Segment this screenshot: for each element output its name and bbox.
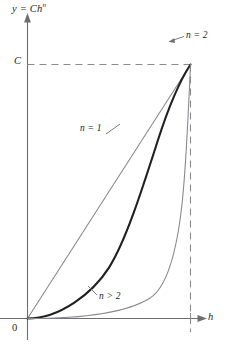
annotation-n-greater-2: n > 2 <box>99 292 121 302</box>
annotation-n-equals-1: n = 1 <box>80 124 102 134</box>
equation-main: y = Ch <box>12 3 42 14</box>
y-axis <box>24 13 31 340</box>
origin-label: 0 <box>12 323 17 334</box>
leader-line-n1 <box>106 124 120 134</box>
x-axis-label: h <box>208 312 213 323</box>
c-tick-label: C <box>14 56 21 67</box>
power-law-curves-figure: y = Chn C 0 h n = 1 n = 2 n > 2 <box>0 0 228 347</box>
curve-n-equals-1 <box>28 65 191 319</box>
leader-line-n2 <box>169 37 185 44</box>
equation-label: y = Chn <box>12 2 46 14</box>
equation-exponent: n <box>42 1 46 9</box>
annotation-n-equals-2: n = 2 <box>186 31 208 41</box>
